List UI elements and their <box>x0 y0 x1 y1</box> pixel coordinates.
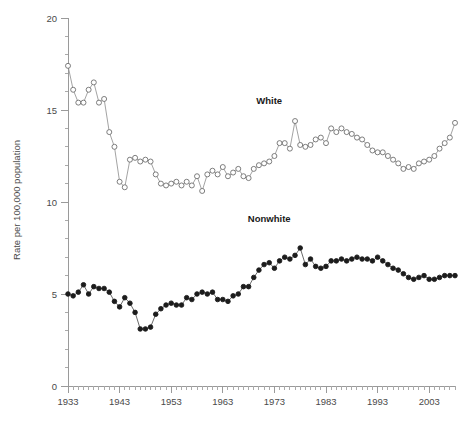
data-point <box>210 168 215 173</box>
data-point <box>76 100 81 105</box>
series-nonwhite <box>66 246 458 332</box>
data-point <box>447 135 452 140</box>
x-tick-label: 1963 <box>212 396 233 407</box>
y-tick-label: 15 <box>46 105 57 116</box>
data-point <box>205 292 210 297</box>
data-point <box>189 183 194 188</box>
data-point <box>236 166 241 171</box>
data-point <box>200 290 205 295</box>
data-point <box>164 303 169 308</box>
x-tick-label: 2003 <box>419 396 440 407</box>
y-tick-label: 20 <box>46 13 57 24</box>
data-point <box>251 275 256 280</box>
x-tick-label: 1983 <box>315 396 336 407</box>
data-point <box>334 259 339 264</box>
data-point <box>401 166 406 171</box>
data-point <box>262 262 267 267</box>
data-point <box>117 179 122 184</box>
data-point <box>153 312 158 317</box>
data-point <box>128 301 133 306</box>
data-point <box>324 141 329 146</box>
data-point <box>256 163 261 168</box>
series-line-white <box>68 66 455 191</box>
data-point <box>385 154 390 159</box>
data-point <box>453 273 458 278</box>
data-point <box>313 137 318 142</box>
x-tick-label: 1973 <box>264 396 285 407</box>
data-point <box>298 142 303 147</box>
data-point <box>127 157 132 162</box>
data-point <box>349 131 354 136</box>
data-point <box>236 292 241 297</box>
data-point <box>107 290 112 295</box>
data-point <box>324 264 329 269</box>
data-point <box>432 277 437 282</box>
data-point <box>318 135 323 140</box>
data-point <box>319 266 324 271</box>
data-point <box>179 303 184 308</box>
data-point <box>231 170 236 175</box>
data-point <box>334 130 339 135</box>
data-point <box>416 161 421 166</box>
data-point <box>257 268 262 273</box>
data-point <box>313 264 318 269</box>
data-point <box>406 165 411 170</box>
data-point <box>365 142 370 147</box>
data-point <box>174 303 179 308</box>
data-point <box>432 154 437 159</box>
data-point <box>231 294 236 299</box>
data-point <box>370 259 375 264</box>
data-point <box>246 284 251 289</box>
data-point <box>427 277 432 282</box>
data-point <box>184 295 189 300</box>
data-point <box>282 255 287 260</box>
data-point <box>190 297 195 302</box>
data-point <box>92 284 97 289</box>
data-point <box>308 142 313 147</box>
data-point <box>71 294 76 299</box>
data-point <box>215 172 220 177</box>
data-point <box>411 166 416 171</box>
data-point <box>442 141 447 146</box>
data-point <box>112 299 117 304</box>
data-point <box>262 161 267 166</box>
data-point <box>179 183 184 188</box>
data-point <box>210 290 215 295</box>
data-point <box>81 283 86 288</box>
data-point <box>138 327 143 332</box>
x-tick-label: 1953 <box>161 396 182 407</box>
data-point <box>437 146 442 151</box>
data-point <box>107 130 112 135</box>
data-point <box>169 181 174 186</box>
data-point <box>277 141 282 146</box>
data-point <box>221 297 226 302</box>
data-point <box>117 305 122 310</box>
y-tick-label: 0 <box>52 381 57 392</box>
data-point <box>396 161 401 166</box>
data-point <box>251 166 256 171</box>
data-point <box>303 144 308 149</box>
data-point <box>329 259 334 264</box>
data-point <box>133 310 138 315</box>
data-point <box>288 257 293 262</box>
series-line-nonwhite <box>68 248 455 329</box>
data-point <box>225 174 230 179</box>
data-point <box>81 100 86 105</box>
data-point <box>391 157 396 162</box>
data-point <box>448 273 453 278</box>
data-point <box>102 286 107 291</box>
data-point <box>287 146 292 151</box>
data-point <box>422 273 427 278</box>
data-point <box>71 87 76 92</box>
data-point <box>267 260 272 265</box>
data-point <box>375 150 380 155</box>
data-point <box>66 292 71 297</box>
data-point <box>138 159 143 164</box>
x-tick-label: 1943 <box>109 396 130 407</box>
data-point <box>184 179 189 184</box>
data-point <box>215 297 220 302</box>
data-point <box>91 80 96 85</box>
data-point <box>282 141 287 146</box>
data-point <box>386 262 391 267</box>
data-point <box>66 63 71 68</box>
